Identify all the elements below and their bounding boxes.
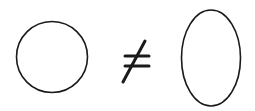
diagram-canvas [0,0,255,111]
not-equal-sign [123,41,149,82]
ellipse-shape [182,10,241,106]
circle-shape [17,22,88,93]
